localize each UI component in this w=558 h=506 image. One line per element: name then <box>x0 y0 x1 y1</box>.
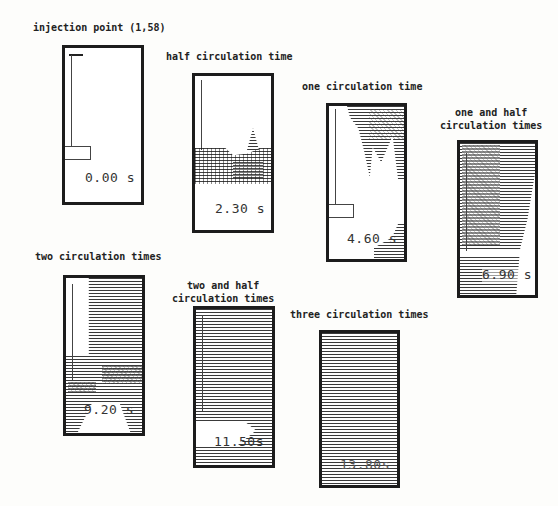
panel-one-circulation: 4.60 s <box>326 103 407 262</box>
shaft-line <box>466 153 467 253</box>
tracer-dense-zone <box>462 145 500 245</box>
tracer-cone <box>247 128 259 150</box>
shaft-line <box>72 284 73 380</box>
time-stamp: 0.00 s <box>85 170 135 185</box>
panel-three-circulation: 13.80s <box>319 330 400 488</box>
panel-two-circulation: 9.20 s <box>63 275 145 436</box>
impeller-outline <box>329 204 354 218</box>
label-two-circulation: two circulation times <box>35 250 161 263</box>
tracer-dense-zone-left <box>68 382 96 392</box>
tracer-core <box>233 162 263 178</box>
shaft-line <box>201 80 202 150</box>
time-stamp: 9.20 s <box>84 402 134 417</box>
tracer-dense-zone <box>369 109 404 139</box>
panel-one-and-half-circulation: 6.90 s <box>457 140 538 298</box>
label-one-and-half-circulation: one and half circulation times <box>440 106 542 132</box>
panel-two-and-half-circulation: 11.50s <box>193 306 275 468</box>
clear-region <box>460 251 535 257</box>
label-half-circulation: half circulation time <box>166 50 292 63</box>
shaft-line <box>202 315 203 411</box>
time-stamp: 4.60 s <box>347 231 397 246</box>
time-stamp: 13.80s <box>340 457 390 472</box>
panel-half-circulation: 2.30 s <box>192 73 274 233</box>
panel-injection: 0.00 s <box>62 45 144 205</box>
label-two-and-half-circulation: two and half circulation times <box>172 279 274 305</box>
label-one-circulation: one circulation time <box>302 80 422 93</box>
shaft-line <box>335 109 336 205</box>
label-injection-point: injection point (1,58) <box>33 21 165 34</box>
shaft-line <box>71 55 72 147</box>
impeller-outline <box>65 146 91 160</box>
time-stamp: 11.50s <box>214 434 264 449</box>
time-stamp: 2.30 s <box>215 201 265 216</box>
label-three-circulation: three circulation times <box>290 308 428 321</box>
tracer-dense-zone <box>102 366 142 384</box>
time-stamp: 6.90 s <box>482 267 532 282</box>
